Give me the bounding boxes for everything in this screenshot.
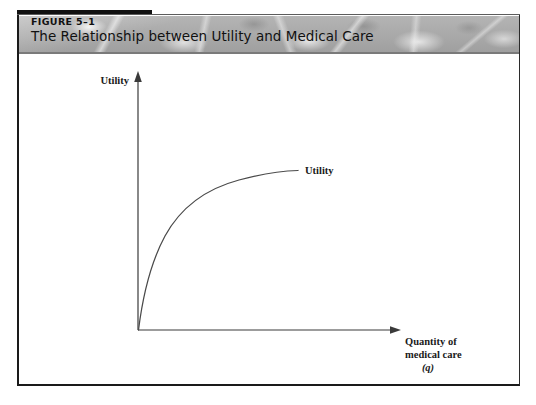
figure-title: The Relationship between Utility and Med… xyxy=(31,30,374,44)
utility-curve-chart: Utility Utility Quantity of medical care… xyxy=(17,14,520,386)
y-axis-label: Utility xyxy=(100,75,129,86)
x-axis-label-line3: (q) xyxy=(422,362,434,374)
y-axis-arrowhead xyxy=(134,71,142,82)
curve-label-utility: Utility xyxy=(305,165,334,176)
chart-plot-area: Utility Utility Quantity of medical care… xyxy=(17,14,520,386)
x-axis xyxy=(138,326,401,334)
y-axis xyxy=(134,71,142,330)
utility-curve xyxy=(139,171,299,331)
x-axis-label-line2: medical care xyxy=(405,349,462,360)
x-axis-arrowhead xyxy=(390,326,401,334)
figure-number: FIGURE 5–1 xyxy=(31,17,374,27)
figure-header: FIGURE 5–1 The Relationship between Util… xyxy=(31,17,374,43)
x-axis-label-line1: Quantity of xyxy=(405,336,457,347)
